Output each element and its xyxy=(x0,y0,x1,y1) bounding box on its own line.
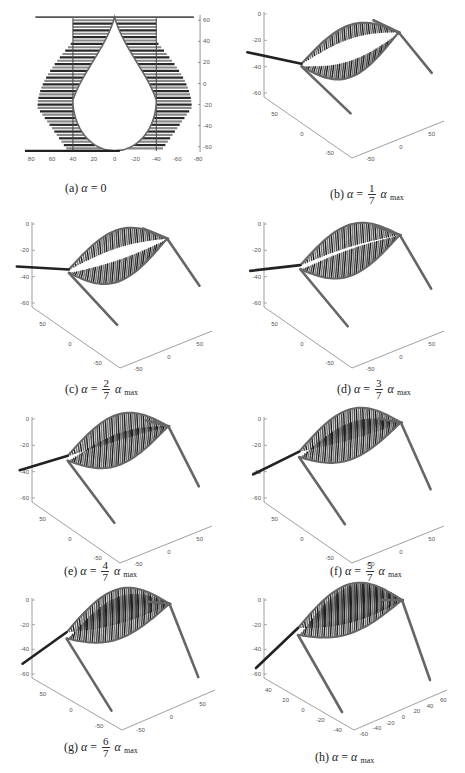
subscript-max: max xyxy=(390,193,404,202)
strand xyxy=(98,241,99,255)
support-rod xyxy=(253,452,299,475)
strand xyxy=(342,28,343,41)
x-tick-label: -60 xyxy=(359,731,368,737)
strand xyxy=(307,618,308,628)
strand xyxy=(373,224,374,240)
strand xyxy=(94,603,95,629)
z-tick-label: -60 xyxy=(20,671,29,677)
caption-g-label: (g) xyxy=(64,740,78,755)
strand xyxy=(89,433,90,449)
strand xyxy=(114,231,115,249)
x-tick-label: -50 xyxy=(134,366,143,372)
panel-h: 0-20-40-6040200-20-40-60-40-200204060 xyxy=(232,590,465,740)
strand xyxy=(336,232,337,252)
strand xyxy=(124,588,125,622)
fraction: 27 xyxy=(102,378,110,401)
z-tick-label: -20 xyxy=(252,37,261,43)
strand xyxy=(93,245,94,258)
z-tick-label: 0 xyxy=(258,597,262,603)
strand xyxy=(338,230,339,250)
z-tick-label: -60 xyxy=(20,300,29,306)
strand xyxy=(107,594,108,626)
strand xyxy=(354,24,355,38)
strand xyxy=(327,423,328,446)
support-rod xyxy=(169,604,198,677)
equals-sign: = xyxy=(91,382,98,397)
strand xyxy=(315,608,316,627)
y-tick-label: 50 xyxy=(40,691,47,697)
strand xyxy=(109,593,110,626)
strand xyxy=(371,409,372,433)
subscript-max: max xyxy=(388,570,402,579)
panel-a: 6040200-20-40-60806040200-20-40-60-80 xyxy=(0,0,232,200)
strand xyxy=(348,225,349,247)
strand xyxy=(131,588,132,620)
strand xyxy=(139,589,140,616)
caption-d-label: (d) xyxy=(337,382,351,397)
alpha-symbol: α xyxy=(347,187,353,202)
strand xyxy=(105,595,106,627)
panel-f-plot: 0-20-40-60500-50-50050 xyxy=(232,405,465,570)
y-tick-label: 50 xyxy=(271,516,278,522)
z-tick-label: -20 xyxy=(252,247,261,253)
z-tick-label: -40 xyxy=(252,646,261,652)
strand xyxy=(104,237,105,253)
y-tick-label: 50 xyxy=(271,321,278,327)
support-rod xyxy=(399,32,432,73)
x-tick-label: -20 xyxy=(386,720,395,726)
strand xyxy=(346,26,347,40)
strand xyxy=(329,421,330,445)
strand xyxy=(118,589,119,623)
strand xyxy=(127,588,128,621)
caption-a-value: 0 xyxy=(100,181,106,196)
strand xyxy=(333,418,334,444)
strand xyxy=(354,224,355,246)
strand xyxy=(356,23,357,36)
caption-c-label: (c) xyxy=(65,382,78,397)
strand xyxy=(331,419,332,444)
strand xyxy=(346,226,347,248)
strand xyxy=(87,250,88,260)
strand xyxy=(87,436,88,450)
x-tick-label: -50 xyxy=(136,727,145,733)
strand xyxy=(352,24,353,38)
y-tick-label: 0 xyxy=(68,341,72,347)
panel-h-plot: 0-20-40-6040200-20-40-60-40-200204060 xyxy=(232,590,465,740)
z-tick-label: -60 xyxy=(252,300,261,306)
strand xyxy=(132,228,133,244)
strand xyxy=(360,223,361,244)
x-tick-label: 40 xyxy=(427,703,434,709)
strand xyxy=(116,590,117,624)
equals-sign: = xyxy=(91,181,98,196)
z-tick-label: 0 xyxy=(26,597,30,603)
y-tick-label: 0 xyxy=(300,341,304,347)
y-tick-label: -40 xyxy=(333,727,342,733)
fraction-denominator: 7 xyxy=(102,572,108,583)
strand xyxy=(128,228,129,245)
support-rod xyxy=(23,632,67,663)
strand xyxy=(342,413,343,442)
strand xyxy=(143,229,144,242)
support-rod xyxy=(68,461,115,523)
z-tick-label: 0 xyxy=(258,11,262,17)
z-tick-label: -20 xyxy=(252,442,261,448)
strand xyxy=(324,41,325,50)
equals-sign: = xyxy=(354,564,361,579)
x-tick-label: -60 xyxy=(173,156,182,162)
strand xyxy=(84,613,85,630)
y-tick-label: -20 xyxy=(316,717,325,723)
strand xyxy=(363,408,364,436)
z-tick-label: -40 xyxy=(20,274,29,280)
z-tick-label: -40 xyxy=(252,64,261,70)
support-rod xyxy=(256,628,298,668)
caption-h-label: (h) xyxy=(315,750,329,765)
strand xyxy=(330,36,331,47)
strand xyxy=(91,432,92,449)
alpha-symbol: α xyxy=(81,382,87,397)
strand xyxy=(356,408,357,438)
x-tick-label: 60 xyxy=(49,156,56,162)
caption-b-label: (b) xyxy=(330,187,344,202)
strand xyxy=(361,408,362,437)
y-axis xyxy=(32,307,120,368)
strand xyxy=(342,228,343,249)
